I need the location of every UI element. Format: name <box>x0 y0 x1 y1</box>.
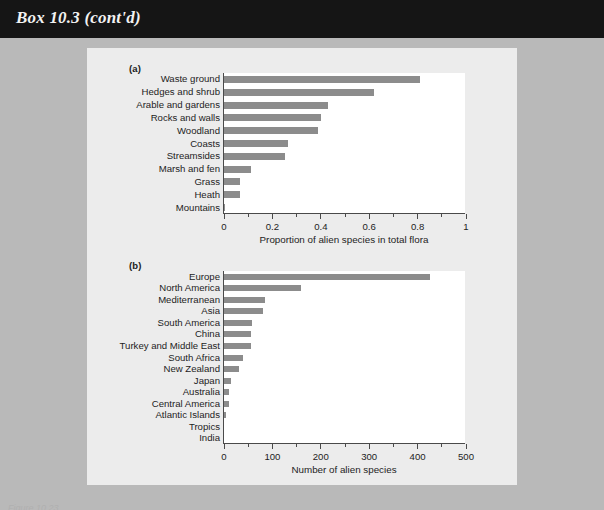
figure-caption: Figure 10.23 <box>8 503 59 510</box>
x-tick-label: 1 <box>463 221 468 232</box>
x-tick-major <box>320 444 321 449</box>
category-label: China <box>195 329 220 339</box>
box-title-bar: Box 10.3 (cont'd) <box>0 0 604 38</box>
category-label: South Africa <box>168 353 220 363</box>
bar-a-6 <box>224 153 285 160</box>
bar-a-10 <box>224 204 225 211</box>
bar-a-7 <box>224 166 251 173</box>
category-label: Heath <box>194 190 220 200</box>
chart-b-x-axis-title: Number of alien species <box>291 464 396 475</box>
chart-a-plot-area: 00.20.40.60.81 <box>223 73 465 214</box>
x-tick-major <box>369 214 370 219</box>
bar-b-5 <box>224 331 251 337</box>
x-tick-label: 400 <box>410 451 426 462</box>
bar-b-8 <box>224 366 239 372</box>
bar-a-4 <box>224 127 318 134</box>
x-tick-label: 500 <box>458 451 474 462</box>
category-label: Japan <box>194 376 220 386</box>
category-label: Central America <box>152 399 220 409</box>
category-label: Atlantic Islands <box>155 410 220 420</box>
category-label: Asia <box>201 306 220 316</box>
category-label: Coasts <box>190 139 220 149</box>
x-tick-label: 0.6 <box>363 221 376 232</box>
category-label: North America <box>159 283 220 293</box>
category-label: South America <box>158 318 220 328</box>
bar-a-0 <box>224 76 420 83</box>
x-tick-major <box>320 214 321 219</box>
x-tick-major <box>224 214 225 219</box>
category-label: Arable and gardens <box>136 100 220 110</box>
category-label: India <box>199 433 220 443</box>
bar-b-10 <box>224 389 229 395</box>
chart-b-category-labels: EuropeNorth AmericaMediterraneanAsiaSout… <box>87 271 220 443</box>
x-tick-label: 200 <box>313 451 329 462</box>
x-tick-minor <box>345 214 346 217</box>
x-tick-minor <box>393 214 394 217</box>
category-label: Mediterranean <box>158 295 220 305</box>
bar-b-6 <box>224 343 251 349</box>
bar-b-4 <box>224 320 252 326</box>
bar-b-9 <box>224 378 231 384</box>
box-title: Box 10.3 (cont'd) <box>16 8 141 28</box>
category-label: Rocks and walls <box>151 113 220 123</box>
x-tick-minor <box>345 444 346 447</box>
category-label: Australia <box>183 387 220 397</box>
bar-b-3 <box>224 308 263 314</box>
bar-a-5 <box>224 140 288 147</box>
bar-b-1 <box>224 285 301 291</box>
chart-a: (a) Waste groundHedges and shrubArable a… <box>87 48 517 248</box>
bar-b-11 <box>224 401 229 407</box>
bar-a-1 <box>224 89 374 96</box>
category-label: Tropics <box>189 422 220 432</box>
category-label: Europe <box>189 272 220 282</box>
x-tick-minor <box>248 214 249 217</box>
x-tick-minor <box>441 214 442 217</box>
x-tick-label: 300 <box>361 451 377 462</box>
x-tick-minor <box>248 444 249 447</box>
bar-a-2 <box>224 102 328 109</box>
category-label: New Zealand <box>163 364 220 374</box>
x-tick-label: 0.2 <box>266 221 279 232</box>
bar-b-0 <box>224 274 430 280</box>
chart-b-tag: (b) <box>129 260 141 271</box>
x-tick-label: 0.8 <box>411 221 424 232</box>
chart-a-category-labels: Waste groundHedges and shrubArable and g… <box>87 73 220 213</box>
x-tick-minor <box>296 214 297 217</box>
category-label: Grass <box>194 177 220 187</box>
x-tick-major <box>466 444 467 449</box>
category-label: Hedges and shrub <box>142 87 220 97</box>
category-label: Streamsides <box>167 151 220 161</box>
chart-a-x-axis-title: Proportion of alien species in total flo… <box>260 234 429 245</box>
bar-b-7 <box>224 355 243 361</box>
bar-b-12 <box>224 412 226 418</box>
x-tick-minor <box>296 444 297 447</box>
bar-a-3 <box>224 114 321 121</box>
bar-a-9 <box>224 191 240 198</box>
x-tick-minor <box>393 444 394 447</box>
figure-panel: (a) Waste groundHedges and shrubArable a… <box>87 48 517 485</box>
category-label: Marsh and fen <box>159 164 220 174</box>
figure-page: Box 10.3 (cont'd) (a) Waste groundHedges… <box>0 0 604 510</box>
x-tick-minor <box>441 444 442 447</box>
category-label: Waste ground <box>161 74 220 84</box>
chart-b-plot-area: 0100200300400500 <box>223 271 465 444</box>
chart-b: (b) EuropeNorth AmericaMediterraneanAsia… <box>87 251 517 483</box>
x-tick-major <box>466 214 467 219</box>
x-tick-major <box>417 444 418 449</box>
x-tick-label: 0 <box>221 221 226 232</box>
category-label: Woodland <box>177 126 220 136</box>
x-tick-major <box>272 214 273 219</box>
x-tick-major <box>272 444 273 449</box>
bar-a-8 <box>224 178 240 185</box>
x-tick-label: 100 <box>264 451 280 462</box>
x-tick-major <box>369 444 370 449</box>
category-label: Mountains <box>176 203 220 213</box>
x-tick-label: 0 <box>221 451 226 462</box>
x-tick-label: 0.4 <box>314 221 327 232</box>
x-tick-major <box>224 444 225 449</box>
x-tick-major <box>417 214 418 219</box>
category-label: Turkey and Middle East <box>120 341 220 351</box>
bar-b-2 <box>224 297 265 303</box>
